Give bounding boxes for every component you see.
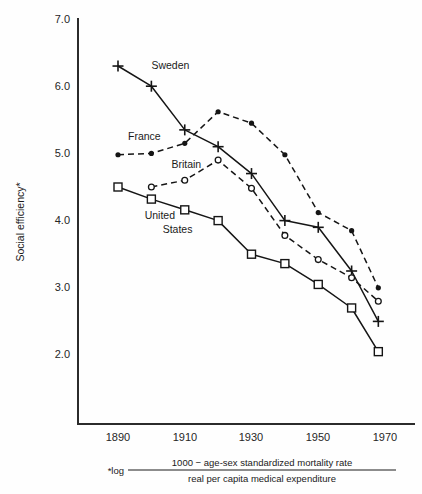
marker-dot [316,210,321,215]
x-tick-label: 1950 [306,431,330,443]
y-axis-title: Social efficiency* [14,182,26,261]
marker-circle [182,177,188,183]
marker-square [314,280,322,288]
marker-plus [279,215,290,226]
marker-circle [249,185,255,191]
x-tick-label: 1970 [373,431,397,443]
y-tick-label: 7.0 [55,13,70,25]
marker-square [248,250,256,258]
marker-square [181,206,189,214]
marker-dot [282,152,287,157]
chart-figure: 7.0 6.0 5.0 4.0 3.0 2.0 1890 1910 1930 1… [0,0,422,494]
marker-plus [113,61,124,72]
series-label-text: United [145,209,176,221]
chart-series-labels: SwedenFranceBritainUnitedStates [128,59,201,235]
marker-circle [349,275,355,281]
marker-square [281,260,289,268]
footnote-numerator: 1000 − age-sex standardized mortality ra… [172,457,352,468]
marker-circle [215,157,221,163]
x-tick-label: 1910 [173,431,197,443]
series-label-text: States [163,223,193,235]
chart-canvas: 7.0 6.0 5.0 4.0 3.0 2.0 1890 1910 1930 1… [0,0,422,494]
chart-axes [78,19,414,424]
marker-square [114,183,122,191]
marker-dot [349,228,354,233]
footnote-denominator: real per capita medical expenditure [188,473,336,484]
y-axis-tick-labels: 7.0 6.0 5.0 4.0 3.0 2.0 [55,13,70,360]
x-tick-label: 1930 [239,431,263,443]
series-label-text: Sweden [151,59,189,71]
marker-dot [115,152,120,157]
marker-plus [373,316,384,327]
marker-dot [249,121,254,126]
marker-circle [375,298,381,304]
marker-dot [376,285,381,290]
chart-footnote: *log 1000 − age-sex standardized mortali… [108,457,396,484]
y-tick-label: 5.0 [55,147,70,159]
marker-square [348,304,356,312]
marker-square [147,195,155,203]
x-axis-tick-labels: 1890 1910 1930 1950 1970 [106,431,397,443]
y-tick-label: 2.0 [55,348,70,360]
series-line [118,66,378,321]
x-tick-label: 1890 [106,431,130,443]
marker-circle [282,232,288,238]
marker-square [214,217,222,225]
series-sweden [113,61,384,327]
chart-series-layer [113,61,384,356]
marker-dot [182,141,187,146]
series-label-text: Britain [171,158,201,170]
marker-dot [149,151,154,156]
footnote-log-prefix: *log [108,465,124,476]
y-tick-label: 3.0 [55,281,70,293]
y-tick-label: 4.0 [55,214,70,226]
marker-circle [148,184,154,190]
series-label-text: France [128,130,161,142]
marker-dot [216,109,221,114]
marker-square [374,348,382,356]
y-tick-label: 6.0 [55,80,70,92]
marker-circle [315,257,321,263]
